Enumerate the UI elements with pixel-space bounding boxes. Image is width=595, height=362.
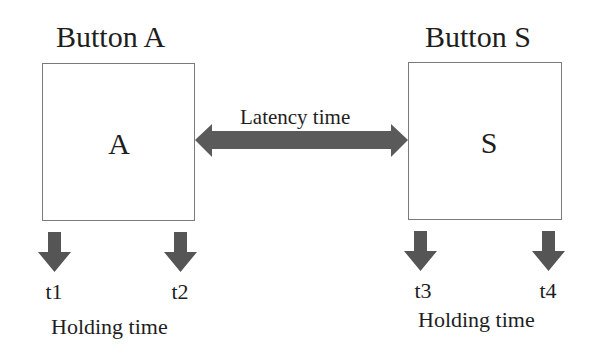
holding-time-s-label: Holding time <box>418 309 535 331</box>
down-arrow-icon-t1 <box>38 232 71 272</box>
time-marker-t4: t4 <box>539 280 556 302</box>
down-arrow-icon-t4 <box>532 231 565 271</box>
double-headed-arrow-icon <box>195 124 408 157</box>
time-marker-t2: t2 <box>171 281 188 303</box>
down-arrow-icon-t2 <box>164 232 197 272</box>
time-marker-t1: t1 <box>45 281 62 303</box>
time-marker-t3: t3 <box>414 280 431 302</box>
down-arrow-icon-t3 <box>404 231 437 271</box>
holding-time-a-label: Holding time <box>51 316 168 338</box>
